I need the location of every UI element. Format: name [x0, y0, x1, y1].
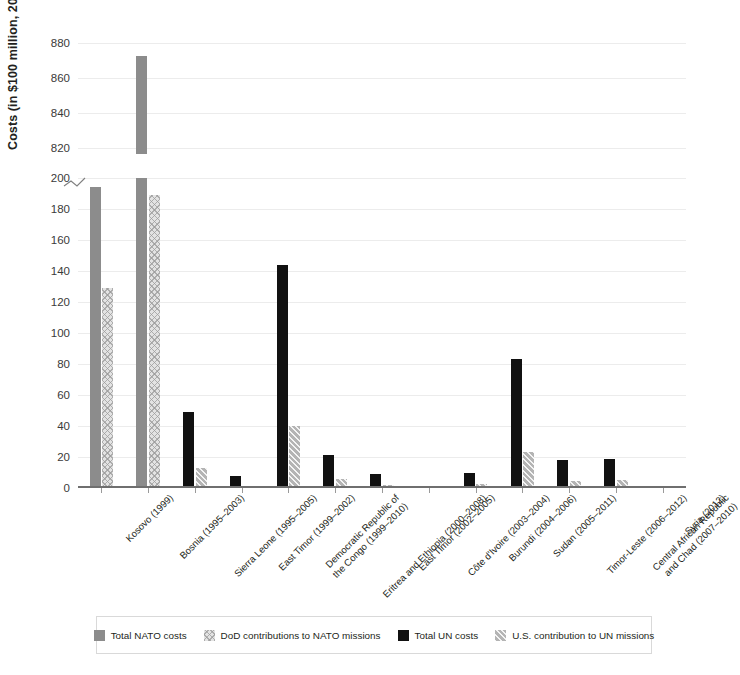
legend-label: Total UN costs	[415, 630, 479, 641]
y-axis-tick-label: 20	[12, 451, 70, 463]
x-axis-label: Bosnia (1995–2003)	[177, 492, 247, 562]
legend-label: Total NATO costs	[111, 630, 187, 641]
y-axis-tick-label: 840	[12, 107, 70, 119]
x-axis-label: Central African Republicand Chad (2007–2…	[650, 492, 740, 582]
bar-group	[639, 34, 686, 488]
bar-un	[604, 459, 615, 488]
bar-us	[196, 468, 207, 488]
y-axis-tick-label: 80	[12, 358, 70, 370]
bar-group	[172, 34, 219, 488]
y-axis-tick-label: 100	[12, 327, 70, 339]
bar-group	[405, 34, 452, 488]
us-swatch	[495, 630, 506, 641]
bar-us	[523, 452, 534, 488]
bar-group	[312, 34, 359, 488]
y-axis-tick-label: 180	[12, 203, 70, 215]
bar-group	[452, 34, 499, 488]
legend-label: DoD contributions to NATO missions	[221, 630, 381, 641]
y-axis-tick-label: 40	[12, 420, 70, 432]
bar-dod	[102, 288, 113, 488]
nato-swatch	[94, 630, 105, 641]
y-axis-tick-label: 820	[12, 142, 70, 154]
y-axis-tick-label: 60	[12, 389, 70, 401]
x-axis-label: Kosovo (1999)	[124, 492, 177, 545]
bar-group	[592, 34, 639, 488]
x-axis-labels: Kosovo (1999)Bosnia (1995–2003)Sierra Le…	[78, 492, 686, 604]
x-axis-baseline	[78, 486, 686, 488]
bar-un	[183, 412, 194, 488]
plot-area: 020406080100120140160180200820840860880	[78, 34, 686, 488]
chart-legend: Total NATO costsDoD contributions to NAT…	[96, 616, 652, 654]
legend-item[interactable]: DoD contributions to NATO missions	[204, 630, 381, 641]
bar-group	[546, 34, 593, 488]
bar-group	[125, 34, 172, 488]
dod-swatch	[204, 630, 215, 641]
bar-un	[323, 455, 334, 488]
x-axis-label-line: Kosovo (1999)	[124, 492, 177, 545]
y-axis-tick-label: 160	[12, 234, 70, 246]
bar-un	[511, 359, 522, 488]
bar-group	[359, 34, 406, 488]
y-axis-tick-label: 0	[12, 482, 70, 494]
legend-item[interactable]: Total NATO costs	[94, 630, 187, 641]
bar-nato-upper	[136, 56, 147, 154]
y-axis-tick-label: 860	[12, 72, 70, 84]
bar-group	[78, 34, 125, 488]
x-axis-label-line: Democratic Republic of	[322, 492, 402, 572]
bar-group	[265, 34, 312, 488]
y-axis-tick-label: 140	[12, 265, 70, 277]
y-axis-tick-label: 120	[12, 296, 70, 308]
x-axis-label-line: Bosnia (1995–2003)	[177, 492, 247, 562]
bar-us	[289, 426, 300, 488]
legend-item[interactable]: U.S. contribution to UN missions	[495, 630, 654, 641]
y-axis-tick-label: 880	[12, 37, 70, 49]
bar-dod	[149, 195, 160, 488]
bar-group	[218, 34, 265, 488]
bar-un	[557, 460, 568, 488]
bar-un	[277, 265, 288, 488]
bar-group	[499, 34, 546, 488]
legend-label: U.S. contribution to UN missions	[512, 630, 654, 641]
legend-item[interactable]: Total UN costs	[398, 630, 479, 641]
bar-nato	[136, 178, 147, 488]
bar-nato	[90, 187, 101, 488]
un-swatch	[398, 630, 409, 641]
